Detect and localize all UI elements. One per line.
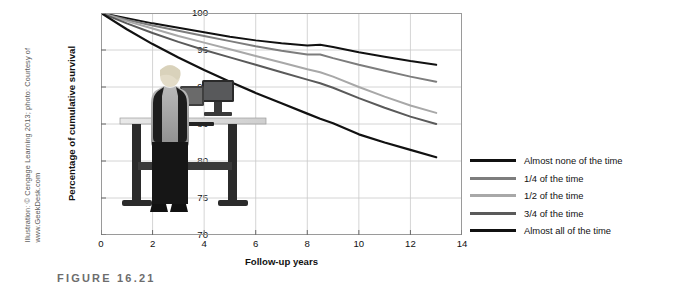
legend-label: Almost none of the time xyxy=(524,155,623,166)
keyboard xyxy=(188,122,214,126)
x-tick-label: 6 xyxy=(246,238,266,249)
legend-item[interactable]: 3/4 of the time xyxy=(470,205,670,223)
person-trousers xyxy=(152,142,188,204)
illustration-credit: Illustration: © Cengage Learning 2013; p… xyxy=(23,13,42,243)
legend-item[interactable]: Almost none of the time xyxy=(470,152,670,170)
legend-item[interactable]: Almost all of the time xyxy=(470,222,670,240)
legend-label: Almost all of the time xyxy=(524,225,611,236)
monitor-primary-screen xyxy=(204,82,232,100)
x-tick-label: 2 xyxy=(143,238,163,249)
legend-label: 1/2 of the time xyxy=(524,190,583,201)
y-axis-title: Percentage of cumulative survival xyxy=(66,9,77,239)
monitor-primary-base xyxy=(204,112,232,116)
x-tick-label: 14 xyxy=(452,238,472,249)
legend-swatch-line xyxy=(470,177,516,180)
standing-desk-photo xyxy=(118,62,268,237)
desk-foot-left xyxy=(122,200,152,206)
x-tick-label: 12 xyxy=(400,238,420,249)
series-line-0 xyxy=(101,13,436,65)
x-tick-label: 0 xyxy=(91,238,111,249)
legend-swatch-line xyxy=(470,159,516,162)
x-axis-title: Follow-up years xyxy=(101,256,462,267)
legend-label: 3/4 of the time xyxy=(524,208,583,219)
legend-swatch-line xyxy=(470,194,516,197)
monitor-primary-stand xyxy=(214,102,222,112)
legend-item[interactable]: 1/2 of the time xyxy=(470,187,670,205)
person-shoe-left xyxy=(150,204,168,212)
x-tick-label: 8 xyxy=(297,238,317,249)
chart-legend: Almost none of the time1/4 of the time1/… xyxy=(470,152,670,240)
person-shoe-right xyxy=(170,204,188,212)
x-tick-label: 10 xyxy=(349,238,369,249)
desk-foot-right xyxy=(218,200,248,206)
legend-swatch-line xyxy=(470,212,516,215)
legend-swatch-line xyxy=(470,229,516,232)
figure-caption: FIGURE 16.21 xyxy=(57,272,156,284)
x-tick-label: 4 xyxy=(194,238,214,249)
legend-item[interactable]: 1/4 of the time xyxy=(470,170,670,188)
legend-label: 1/4 of the time xyxy=(524,173,583,184)
